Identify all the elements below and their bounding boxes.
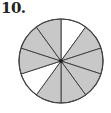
center-dot xyxy=(59,59,63,63)
fraction-circle xyxy=(0,0,111,113)
